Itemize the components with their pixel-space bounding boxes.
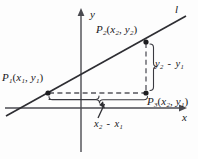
x-axis-label: x bbox=[182, 112, 187, 123]
y-axis-label: y bbox=[90, 9, 95, 20]
run-brace bbox=[49, 96, 148, 103]
point-label-p1: P1(x1, y1) bbox=[2, 72, 43, 85]
run-annotation-label: x2 - x1 bbox=[94, 119, 123, 131]
run-leader-arrow bbox=[98, 101, 105, 118]
y-axis bbox=[78, 8, 85, 152]
point-dot-p2 bbox=[143, 39, 148, 44]
line-label-l: l bbox=[175, 4, 178, 15]
point-label-p3: P3(x2, y1) bbox=[147, 96, 188, 109]
point-dot-p1 bbox=[45, 90, 50, 95]
rise-annotation-label: y2 - y1 bbox=[155, 59, 184, 71]
slope-diagram-figure: P1(x1, y1) P2(x2, y2) P3(x2, y1) y2 - y1… bbox=[0, 0, 198, 159]
point-label-p2: P2(x2, y2) bbox=[96, 24, 137, 37]
